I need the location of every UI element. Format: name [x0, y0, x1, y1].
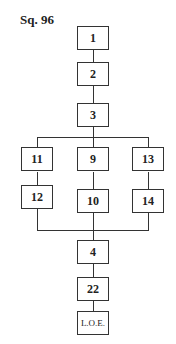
node-10: 10: [77, 189, 109, 213]
connector-14-merge: [148, 213, 149, 230]
connector-4-22: [93, 264, 94, 277]
connector-2-3: [93, 86, 94, 103]
node-12: 12: [21, 185, 53, 209]
node-22: 22: [77, 277, 109, 301]
connector-12-merge: [37, 209, 38, 230]
node-1: 1: [77, 26, 109, 50]
connector-22-loe: [93, 300, 94, 311]
connector-13-14: [148, 172, 149, 189]
node-loe: L.O.E.: [77, 311, 109, 335]
connector-11-12: [37, 172, 38, 185]
node-3: 3: [77, 103, 109, 127]
node-9: 9: [77, 147, 109, 171]
connector-1-2: [93, 50, 94, 62]
connector-branch-9: [93, 137, 94, 147]
node-11: 11: [21, 147, 53, 171]
node-4: 4: [77, 240, 109, 264]
merge-line: [37, 230, 149, 231]
diagram-title: Sq. 96: [20, 12, 54, 28]
connector-10-merge: [93, 213, 94, 240]
node-13: 13: [132, 147, 164, 171]
node-14: 14: [132, 189, 164, 213]
node-2: 2: [77, 62, 109, 86]
connector-branch-13: [148, 137, 149, 147]
connector-branch-11: [37, 137, 38, 147]
connector-3-branch: [93, 127, 94, 137]
connector-9-10: [93, 172, 94, 189]
